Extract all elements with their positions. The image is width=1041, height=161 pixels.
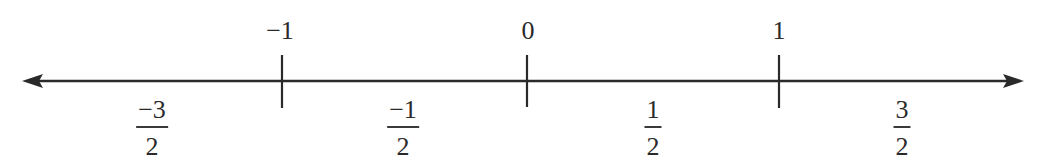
tick-label-minus-1: −1 <box>266 18 294 44</box>
fraction-denominator: 2 <box>896 128 909 160</box>
fraction-numerator: 3 <box>894 97 911 126</box>
tick-label-1: 1 <box>773 18 786 44</box>
fraction-denominator: 2 <box>647 128 660 160</box>
fraction-numerator: 1 <box>645 97 662 126</box>
fraction-three-halves: 3 2 <box>894 97 911 160</box>
fraction-minus-one-half: −1 2 <box>387 97 419 160</box>
fraction-minus-three-halves: −3 2 <box>136 97 168 160</box>
fraction-numerator: −1 <box>387 97 419 126</box>
fraction-one-half: 1 2 <box>645 97 662 160</box>
fraction-numerator: −3 <box>136 97 168 126</box>
tick-label-0: 0 <box>522 18 535 44</box>
number-line-diagram: −1 0 1 −3 2 −1 2 1 2 3 2 <box>0 0 1041 161</box>
fraction-denominator: 2 <box>396 128 409 160</box>
fraction-denominator: 2 <box>145 128 158 160</box>
